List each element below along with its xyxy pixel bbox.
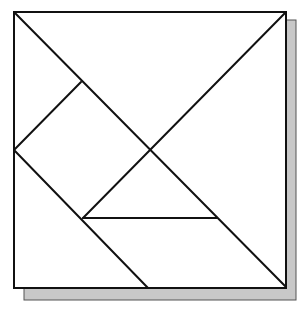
tangram-diagram [0, 0, 303, 311]
